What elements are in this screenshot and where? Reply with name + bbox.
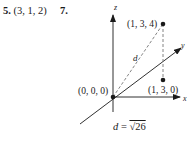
caption-eq: = [118,121,129,132]
label-1-3-0: (1, 3, 0) [148,85,178,96]
label-origin: (0, 0, 0) [78,86,108,97]
distance-label: d [133,53,138,63]
caption-value: √26 [129,121,145,132]
label-1-3-4: (1, 3, 4) [127,19,157,30]
y-axis-label: y [180,41,185,50]
x-axis-label: x [182,94,187,103]
point-origin [111,95,116,100]
z-axis-label: z [113,3,118,12]
distance-caption: d = √26 [113,121,146,132]
point-1-3-0 [161,78,166,83]
point-1-3-4 [161,22,166,27]
coordinate-figure: z x y (1, 3, 4) (1, 3, 0) (0, 0, 0) d [0,0,190,143]
